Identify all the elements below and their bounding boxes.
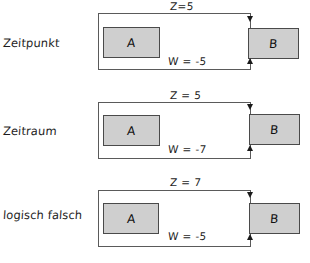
arrow-up-icon (247, 58, 253, 64)
z-value-label: Z = 5 (170, 89, 202, 101)
row-caption: Zeitraum (3, 124, 96, 138)
w-value-label: W = -5 (168, 55, 208, 67)
activity-box-b-label: B (270, 212, 280, 226)
w-value-label: W = -5 (168, 230, 208, 242)
activity-box-a: A (103, 203, 159, 234)
activity-box-b: B (249, 114, 300, 145)
arrow-down-icon (247, 16, 253, 22)
activity-box-a-label: A (127, 36, 137, 50)
diagram-row: Zeitraum A B Z = 5 W = -7 (0, 88, 310, 174)
row-caption: logisch falsch (3, 208, 96, 222)
arrow-down-icon (247, 192, 253, 198)
activity-box-b: B (249, 203, 300, 234)
row-caption: Zeitpunkt (3, 36, 96, 50)
arrow-up-icon (247, 145, 253, 151)
w-value-label: W = -7 (168, 143, 208, 155)
activity-box-b-label: B (269, 37, 279, 51)
arrow-up-icon (247, 234, 253, 240)
activity-box-b: B (248, 28, 299, 59)
diagram-row: logisch falsch A B Z = 7 W = -5 (0, 174, 310, 263)
z-value-label: Z=5 (170, 0, 195, 12)
diagram-row: Zeitpunkt A B Z=5 W = -5 (0, 0, 310, 88)
arrow-down-icon (247, 104, 253, 110)
activity-box-a-label: A (126, 212, 136, 226)
timing-constraint-diagram: Zeitpunkt A B Z=5 W = -5 Zeitraum A B Z … (0, 0, 310, 263)
activity-box-b-label: B (270, 123, 280, 137)
activity-box-a: A (103, 115, 160, 146)
z-value-label: Z = 7 (170, 176, 202, 188)
activity-box-a-label: A (127, 124, 137, 138)
activity-box-a: A (103, 27, 160, 58)
